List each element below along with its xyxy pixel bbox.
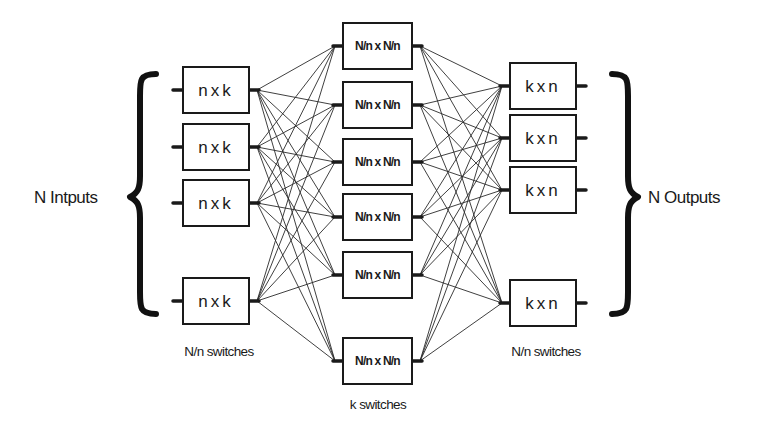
switch-label: N/n x N/n (355, 268, 400, 282)
wire (420, 275, 502, 303)
switch-label: nxk (198, 138, 233, 157)
wire (257, 90, 335, 105)
switch-box: nxk (173, 67, 259, 113)
clos-network-diagram: nxknxknxknxk N/n x N/nN/n x N/nN/n x N/n… (0, 0, 773, 432)
switch-label: kxn (525, 77, 560, 96)
switch-box: nxk (173, 278, 259, 324)
switch-label: N/n x N/n (355, 210, 400, 224)
wire (420, 105, 502, 138)
wire (420, 190, 502, 217)
switch-box: kxn (500, 63, 586, 109)
wire (420, 303, 502, 361)
switch-label: N/n x N/n (355, 98, 400, 112)
wire (257, 46, 335, 147)
switch-box: N/n x N/n (333, 139, 422, 185)
switch-box: kxn (500, 115, 586, 161)
switch-label: kxn (525, 181, 560, 200)
switch-box: nxk (173, 180, 259, 226)
wire (257, 147, 335, 275)
diagram-canvas: nxknxknxknxk N/n x N/nN/n x N/nN/n x N/n… (0, 0, 773, 432)
switch-box: N/n x N/n (333, 23, 422, 69)
wire (420, 86, 502, 105)
wire (420, 162, 502, 190)
wire (257, 301, 335, 361)
wire (257, 203, 335, 217)
wire (257, 46, 335, 203)
inputs-label: N Intputs (34, 188, 98, 207)
wire (420, 217, 502, 303)
switch-box: kxn (500, 280, 586, 326)
right-stage-caption: N/n switches (511, 344, 581, 359)
wire (257, 46, 335, 301)
switch-label: kxn (525, 294, 560, 313)
wire (420, 86, 502, 217)
wire (257, 105, 335, 203)
wire (420, 86, 502, 361)
switch-label: nxk (198, 292, 233, 311)
wire (420, 46, 502, 303)
switch-box: nxk (173, 124, 259, 170)
switch-label: N/n x N/n (355, 155, 400, 169)
wire (420, 190, 502, 361)
switch-label: nxk (198, 81, 233, 100)
middle-stage: N/n x N/nN/n x N/nN/n x N/nN/n x N/nN/n … (333, 23, 422, 384)
wire (420, 86, 502, 275)
switch-label: kxn (525, 129, 560, 148)
left-stage: nxknxknxknxk (173, 67, 259, 324)
switch-label: nxk (198, 194, 233, 213)
switch-box: N/n x N/n (333, 252, 422, 298)
outputs-brace (612, 74, 638, 314)
left-stage-caption: N/n switches (184, 344, 254, 359)
wire (257, 105, 335, 147)
wire (257, 105, 335, 301)
switch-label: N/n x N/n (355, 39, 400, 53)
wire (420, 138, 502, 361)
switch-box: kxn (500, 167, 586, 213)
switch-box: N/n x N/n (333, 338, 422, 384)
wire (420, 190, 502, 275)
wire (420, 46, 502, 86)
switch-label: N/n x N/n (355, 354, 400, 368)
middle-stage-caption: k switches (350, 397, 407, 412)
right-stage: kxnkxnkxnkxn (500, 63, 586, 326)
switch-box: N/n x N/n (333, 82, 422, 128)
wire (257, 90, 335, 361)
switch-box: N/n x N/n (333, 194, 422, 240)
inputs-brace (130, 74, 156, 314)
wire (420, 105, 502, 303)
outputs-label: N Outputs (648, 188, 720, 207)
